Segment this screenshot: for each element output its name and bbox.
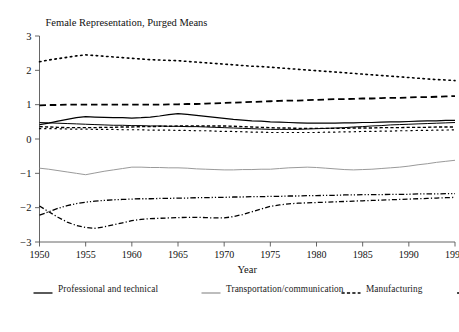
y-axis-tick-label: −2 <box>20 202 31 213</box>
legend-item-transportation-communication: Transportation/communication <box>201 283 341 297</box>
legend-line-sample-icon <box>201 285 221 295</box>
chart-legend: Professional and technicalTransportation… <box>33 283 457 327</box>
series-line-agricultural <box>40 194 456 216</box>
legend-item-manufacturing: Manufacturing <box>341 283 457 297</box>
x-axis-title: Year <box>238 264 258 275</box>
x-axis-tick-label: 1960 <box>122 249 142 260</box>
axes-layer <box>35 36 455 247</box>
series-line-manufacturing <box>40 126 456 128</box>
x-axis-tick-label: 1995 <box>445 249 459 260</box>
series-line-transportation-communication <box>40 160 456 174</box>
legend-item-professional-and-technical: Professional and technical <box>33 283 201 297</box>
series-line-management <box>40 55 456 81</box>
legend-label: Professional and technical <box>58 285 158 294</box>
series-line-service <box>40 129 456 133</box>
chart-title: Female Representation, Purged Means <box>46 17 208 28</box>
x-axis-tick-label: 1965 <box>168 249 188 260</box>
x-axis-tick-label: 1950 <box>30 249 50 260</box>
legend-line-sample-icon <box>33 285 53 295</box>
y-axis-tick-label: −1 <box>20 168 31 179</box>
series-line-professional-and-technical <box>40 114 456 125</box>
legend-label: Manufacturing <box>366 285 423 294</box>
x-axis-tick-label: 1990 <box>399 249 419 260</box>
series-layer <box>40 55 456 228</box>
legend-label: Transportation/communication <box>226 285 344 294</box>
series-line-protective-service <box>40 197 456 228</box>
x-axis-tick-label: 1970 <box>214 249 234 260</box>
y-axis-tick-label: 1 <box>26 99 31 110</box>
y-axis-tick-label: 0 <box>26 134 31 145</box>
x-axis-tick-label: 1985 <box>353 249 373 260</box>
y-axis-tick-label: 3 <box>26 31 31 42</box>
y-axis-tick-label: −3 <box>20 237 31 248</box>
x-axis-tick-label: 1975 <box>260 249 280 260</box>
x-axis-tick-label: 1980 <box>307 249 327 260</box>
series-line-clerical <box>40 96 456 105</box>
legend-line-sample-icon <box>341 285 361 295</box>
x-axis-tick-label: 1955 <box>76 249 96 260</box>
y-axis-tick-label: 2 <box>26 65 31 76</box>
chart-figure: −3−2−10123195019551960196519701975198019… <box>0 0 459 332</box>
